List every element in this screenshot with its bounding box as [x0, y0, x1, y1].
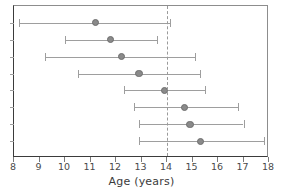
interval-cap-high: [157, 36, 158, 44]
interval-cap-low: [45, 53, 46, 61]
estimate-point-marker: [181, 104, 188, 111]
interval-cap-high: [264, 137, 265, 145]
x-axis-tick-label: 18: [255, 161, 281, 172]
interval-cap-low: [134, 103, 135, 111]
interval-cap-high: [244, 120, 245, 128]
y-axis-tick: [10, 57, 14, 58]
y-axis-tick: [10, 40, 14, 41]
interval-cap-high: [170, 19, 171, 27]
interval-cap-low: [139, 137, 140, 145]
y-axis-tick: [10, 74, 14, 75]
interval-cap-low: [139, 120, 140, 128]
interval-cap-high: [200, 70, 201, 78]
estimate-point-marker: [135, 70, 142, 77]
interval-cap-low: [78, 70, 79, 78]
x-axis-tick-label: 17: [230, 161, 256, 172]
estimate-point-marker: [107, 36, 114, 43]
x-axis-tick-label: 10: [51, 161, 77, 172]
forest-plot-figure: 89101112131415161718 Age (years): [0, 0, 283, 195]
x-axis-title: Age (years): [0, 175, 283, 188]
interval-cap-low: [124, 86, 125, 94]
interval-cap-high: [195, 53, 196, 61]
estimate-point-marker: [92, 19, 99, 26]
y-axis-tick: [10, 124, 14, 125]
interval-cap-high: [238, 103, 239, 111]
estimate-point-marker: [118, 53, 125, 60]
interval-cap-high: [205, 86, 206, 94]
estimate-point-marker: [197, 138, 204, 145]
y-axis-tick: [10, 23, 14, 24]
x-axis-tick-label: 9: [26, 161, 52, 172]
interval-cap-low: [65, 36, 66, 44]
y-axis-tick: [10, 90, 14, 91]
x-axis-tick-label: 16: [204, 161, 230, 172]
x-axis-tick-label: 12: [102, 161, 128, 172]
estimate-point-marker: [186, 121, 193, 128]
x-axis-tick-label: 11: [77, 161, 103, 172]
x-axis-tick-label: 13: [128, 161, 154, 172]
x-axis-tick-label: 15: [179, 161, 205, 172]
y-axis-tick: [10, 107, 14, 108]
plot-area: [13, 5, 268, 157]
x-axis-tick-label: 8: [0, 161, 26, 172]
reference-line: [167, 6, 168, 156]
y-axis-tick: [10, 141, 14, 142]
interval-cap-low: [19, 19, 20, 27]
x-axis-tick-label: 14: [153, 161, 179, 172]
